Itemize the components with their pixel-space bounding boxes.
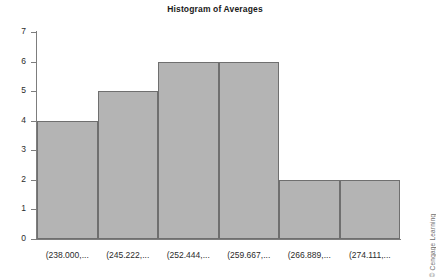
x-tick-label: (238.000,... [37, 250, 98, 260]
y-tick-label-6: 6 [2, 57, 26, 66]
chart-title: Histogram of Averages [0, 4, 430, 15]
x-tick-label: (259.667,... [219, 250, 280, 260]
bar [158, 62, 219, 239]
bar [37, 121, 98, 239]
bar [279, 180, 340, 239]
x-tick-label: (245.222,... [98, 250, 159, 260]
x-axis-line [36, 239, 401, 240]
y-tick-3 [31, 150, 36, 151]
y-tick-label-1: 1 [2, 204, 26, 213]
x-tick-label: (274.111,... [340, 250, 401, 260]
y-tick-7 [31, 32, 36, 33]
y-tick-0 [31, 239, 36, 240]
y-tick-label-7: 7 [2, 27, 26, 36]
x-tick-label: (266.889,... [279, 250, 340, 260]
y-tick-label-2: 2 [2, 175, 26, 184]
bar [340, 180, 401, 239]
copyright-watermark: © Cengage Learning [429, 214, 436, 277]
bar [98, 91, 159, 239]
y-tick-6 [31, 62, 36, 63]
y-tick-5 [31, 91, 36, 92]
y-tick-label-0: 0 [2, 234, 26, 243]
y-tick-1 [31, 209, 36, 210]
x-tick-label: (252.444,... [158, 250, 219, 260]
y-tick-2 [31, 180, 36, 181]
y-tick-label-4: 4 [2, 116, 26, 125]
y-tick-label-5: 5 [2, 86, 26, 95]
bar [219, 62, 280, 239]
y-tick-label-3: 3 [2, 145, 26, 154]
y-tick-4 [31, 121, 36, 122]
